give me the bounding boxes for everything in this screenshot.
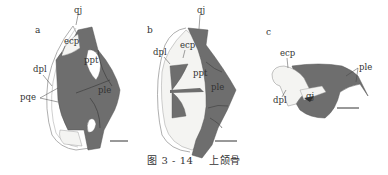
label-pqe: pqe <box>20 92 36 102</box>
panel-b: b qj ecp dpl ppt ple <box>147 5 237 158</box>
label-dpl: dpl <box>33 64 47 74</box>
maxilla-figure: a qj ecp ppt dpl pqe ple b <box>0 0 388 175</box>
panel-c-letter: c <box>266 27 271 37</box>
panel-c: c ecp ple dpl qj <box>266 27 372 118</box>
label-qj: qj <box>197 5 205 15</box>
label-ple: ple <box>359 62 372 72</box>
label-ppt: ppt <box>84 55 99 65</box>
label-dpl: dpl <box>153 47 167 57</box>
label-ple: ple <box>98 85 111 95</box>
label-ppt: ppt <box>193 68 208 78</box>
label-dpl: dpl <box>273 95 287 105</box>
figure-caption: 图 3 - 14 上颌骨 <box>0 152 388 167</box>
figure-title: 上颌骨 <box>209 155 241 166</box>
label-ecp: ecp <box>64 36 80 46</box>
panel-a: a qj ecp ppt dpl pqe ple <box>20 5 128 150</box>
figure-number: 图 3 - 14 <box>147 155 193 166</box>
label-ple: ple <box>211 82 224 92</box>
panel-a-lower-left-opening <box>60 130 83 146</box>
label-qj: qj <box>306 91 314 101</box>
label-qj: qj <box>74 5 82 15</box>
panel-a-letter: a <box>35 25 41 35</box>
label-ecp: ecp <box>280 48 296 58</box>
panel-b-letter: b <box>147 25 153 35</box>
label-ecp: ecp <box>180 40 196 50</box>
